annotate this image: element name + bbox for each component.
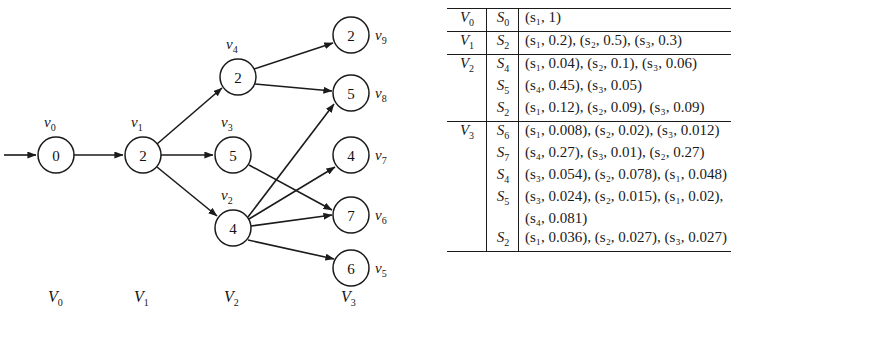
table-cell-distribution: (s₃, 0.054), (s₂, 0.078), (s₁, 0.048) <box>519 166 731 188</box>
graph-svg: 0 2 2 5 4 2 5 4 7 6 <box>0 0 435 339</box>
table-cell-level <box>447 99 487 122</box>
table-cell-level: V0 <box>447 9 487 32</box>
edge-v3-v6 <box>249 165 332 210</box>
table-cell-distribution: (s₁, 0.04), (s₂, 0.1), (s₃, 0.06) <box>519 55 731 78</box>
table-cell-level <box>447 229 487 252</box>
table-cell-distribution: (s₁, 0.036), (s₂, 0.027), (s₃, 0.027) <box>519 229 731 252</box>
column-label-v3: V3 <box>341 288 356 308</box>
edge-v2-v6 <box>251 215 332 226</box>
table-cell-distribution: (s₁, 0.12), (s₂, 0.09), (s₃, 0.09) <box>519 99 731 122</box>
table-cell-level <box>447 210 487 229</box>
table-cell-state: S2 <box>487 32 519 55</box>
node-label-v9: v9 <box>375 27 387 46</box>
table-cell-state: S2 <box>487 99 519 122</box>
table-row: V2 S4 (s₁, 0.04), (s₂, 0.1), (s₃, 0.06) <box>447 55 731 78</box>
column-label-v2: V2 <box>224 288 239 308</box>
table-row: V3 S6 (s₁, 0.008), (s₂, 0.02), (s₃, 0.01… <box>447 122 731 145</box>
node-value-v4: 2 <box>234 70 242 86</box>
node-value-v2: 4 <box>229 221 237 237</box>
table-row: S2 (s₁, 0.12), (s₂, 0.09), (s₃, 0.09) <box>447 99 731 122</box>
table-row: V0 S0 (s₁, 1) <box>447 9 731 32</box>
column-label-v0: V0 <box>48 288 63 308</box>
graph-panel: 0 2 2 5 4 2 5 4 7 6 v0 v1 v4 v3 v2 v9 v8… <box>0 0 435 339</box>
edge-v4-v8 <box>255 84 332 91</box>
table-cell-level <box>447 188 487 210</box>
table-cell-distribution: (s₄, 0.27), (s₃, 0.01), (s₂, 0.27) <box>519 144 731 166</box>
table-cell-state: S6 <box>487 122 519 145</box>
table-cell-level: V3 <box>447 122 487 145</box>
table-cell-distribution: (s₄, 0.081) <box>519 210 731 229</box>
node-value-v3: 5 <box>229 148 237 164</box>
table-row: S5 (s₃, 0.024), (s₂, 0.015), (s₁, 0.02), <box>447 188 731 210</box>
node-value-v6: 7 <box>347 208 355 224</box>
table-cell-state: S0 <box>487 9 519 32</box>
table-cell-state: S5 <box>487 77 519 99</box>
edge-v2-v7 <box>249 167 335 219</box>
distribution-table: V0 S0 (s₁, 1) V1 S2 (s₁, 0.2), (s₂, 0.5)… <box>447 8 731 252</box>
node-label-v3: v3 <box>221 114 233 133</box>
table-row: (s₄, 0.081) <box>447 210 731 229</box>
table-cell-state: S7 <box>487 144 519 166</box>
table-cell-level: V1 <box>447 32 487 55</box>
edge-v2-v5 <box>248 240 334 259</box>
graph-nodes <box>38 17 369 286</box>
column-label-v1: V1 <box>134 288 149 308</box>
table-cell-level <box>447 77 487 99</box>
table-cell-distribution: (s₃, 0.024), (s₂, 0.015), (s₁, 0.02), <box>519 188 731 210</box>
table-cell-state: S4 <box>487 166 519 188</box>
table-row: S7 (s₄, 0.27), (s₃, 0.01), (s₂, 0.27) <box>447 144 731 166</box>
edge-v4-v9 <box>254 43 333 69</box>
table-cell-state: S5 <box>487 188 519 210</box>
node-value-v9: 2 <box>347 28 355 44</box>
node-label-v5: v5 <box>375 260 387 279</box>
table-cell-level <box>447 166 487 188</box>
table-cell-level: V2 <box>447 55 487 78</box>
edge-v2-v8 <box>248 104 334 217</box>
node-value-v0: 0 <box>52 148 60 164</box>
table-row: V1 S2 (s₁, 0.2), (s₂, 0.5), (s₃, 0.3) <box>447 32 731 55</box>
table-cell-distribution: (s₁, 0.008), (s₂, 0.02), (s₃, 0.012) <box>519 122 731 145</box>
figure-root: 0 2 2 5 4 2 5 4 7 6 v0 v1 v4 v3 v2 v9 v8… <box>0 0 869 339</box>
table-row: S4 (s₃, 0.054), (s₂, 0.078), (s₁, 0.048) <box>447 166 731 188</box>
table-cell-state <box>487 210 519 229</box>
node-label-v6: v6 <box>375 207 387 226</box>
table-row: S5 (s₄, 0.45), (s₃, 0.05) <box>447 77 731 99</box>
node-label-v8: v8 <box>375 85 387 104</box>
node-value-v8: 5 <box>347 86 355 102</box>
node-label-v0: v0 <box>44 114 56 133</box>
table-cell-distribution: (s₁, 0.2), (s₂, 0.5), (s₃, 0.3) <box>519 32 731 55</box>
node-value-v1: 2 <box>139 148 147 164</box>
table-cell-state: S4 <box>487 55 519 78</box>
graph-node-values: 0 2 2 5 4 2 5 4 7 6 <box>52 28 355 277</box>
node-value-v5: 6 <box>347 261 355 277</box>
node-label-v2: v2 <box>221 187 233 206</box>
table-row: S2 (s₁, 0.036), (s₂, 0.027), (s₃, 0.027) <box>447 229 731 252</box>
node-label-v7: v7 <box>375 147 387 166</box>
table-cell-level <box>447 144 487 166</box>
edge-v1-v2 <box>157 167 217 216</box>
table-cell-distribution: (s₄, 0.45), (s₃, 0.05) <box>519 77 731 99</box>
table-cell-distribution: (s₁, 1) <box>519 9 731 32</box>
distribution-table-panel: V0 S0 (s₁, 1) V1 S2 (s₁, 0.2), (s₂, 0.5)… <box>435 0 869 339</box>
edge-v1-v4 <box>157 88 222 144</box>
node-value-v7: 4 <box>347 148 355 164</box>
node-label-v4: v4 <box>226 36 238 55</box>
table-cell-state: S2 <box>487 229 519 252</box>
node-label-v1: v1 <box>131 114 143 133</box>
